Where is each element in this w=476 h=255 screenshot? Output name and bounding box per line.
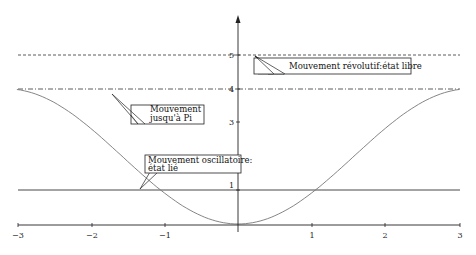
x-tick-label: 1 xyxy=(309,231,314,240)
y-axis-arrow-icon xyxy=(236,15,241,23)
annotation-free-text: Mouvement révolutif:état libre xyxy=(289,61,422,71)
annotation-oscillatory: Mouvement oscillatoire: état lié xyxy=(140,155,252,189)
annotation-osc-text-2: état lié xyxy=(148,163,178,173)
x-tick-label: −2 xyxy=(86,231,98,240)
x-tick-label: 2 xyxy=(382,231,387,240)
x-tick-label: −1 xyxy=(159,231,171,240)
y-tick-label: 3 xyxy=(229,118,234,127)
x-tick-label: −3 xyxy=(12,231,24,240)
y-tick-label: 1 xyxy=(229,181,234,190)
annotation-up-to-pi: Mouvement jusqu'à Pi xyxy=(112,94,204,124)
chart: −3 −2 −1 1 2 3 1 3 4 5 Mouvement révolut… xyxy=(0,0,476,255)
y-tick-label: 4 xyxy=(229,85,234,94)
y-tick-label: 5 xyxy=(229,51,234,60)
x-tick-label: 3 xyxy=(457,231,462,240)
annotation-free-state: Mouvement révolutif:état libre xyxy=(254,56,422,74)
annotation-pi-text-2: jusqu'à Pi xyxy=(149,113,192,123)
